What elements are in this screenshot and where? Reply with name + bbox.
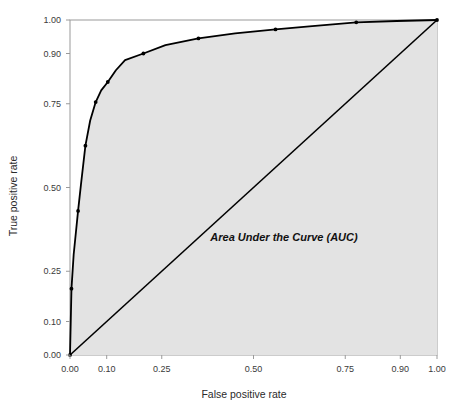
roc-data-point — [76, 209, 80, 213]
roc-data-point — [274, 27, 278, 31]
x-axis-tick-label: 0.25 — [153, 364, 171, 374]
roc-data-point — [70, 287, 74, 291]
x-axis-title: False positive rate — [201, 388, 286, 400]
roc-data-point — [94, 100, 98, 104]
x-axis-tick-label: 0.00 — [61, 364, 79, 374]
roc-chart-svg: 0.000.100.250.500.750.901.00 0.000.100.2… — [0, 0, 457, 413]
y-axis-tick-label: 0.25 — [43, 266, 61, 276]
y-axis-tick-label: 0.90 — [43, 49, 61, 59]
roc-data-point — [106, 80, 110, 84]
x-axis-tick-label: 1.00 — [428, 364, 446, 374]
roc-data-point — [197, 37, 201, 41]
roc-data-point — [142, 52, 146, 56]
roc-data-point — [435, 18, 439, 22]
auc-annotation-label: Area Under the Curve (AUC) — [209, 231, 358, 243]
x-axis-tick-label: 0.50 — [245, 364, 263, 374]
y-axis-title: True positive rate — [7, 155, 19, 236]
x-axis-tick-label: 0.90 — [392, 364, 410, 374]
y-axis-tick-label: 0.75 — [43, 99, 61, 109]
roc-data-point — [354, 20, 358, 24]
roc-data-point — [84, 144, 88, 148]
x-axis-tick-label: 0.75 — [336, 364, 354, 374]
x-axis-tick-label: 0.10 — [98, 364, 116, 374]
y-axis-tick-label: 0.00 — [43, 350, 61, 360]
y-axis-tick-label: 1.00 — [43, 15, 61, 25]
y-axis-tick-label: 0.50 — [43, 183, 61, 193]
roc-chart: 0.000.100.250.500.750.901.00 0.000.100.2… — [0, 0, 457, 413]
y-axis-tick-label: 0.10 — [43, 317, 61, 327]
